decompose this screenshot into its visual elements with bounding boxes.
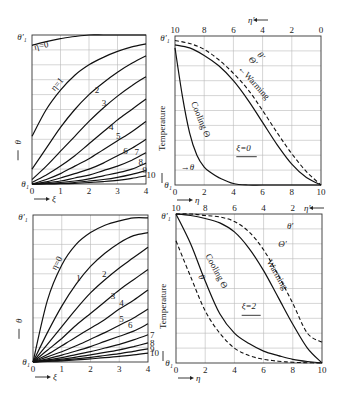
dashed-top-symbol-label: θ′ [287, 221, 294, 231]
x-tick-label: 4 [231, 187, 236, 197]
x2-tick-label: 6 [231, 25, 236, 35]
y-axis-label: θ [13, 139, 23, 144]
y-top-label: θ′₁ [17, 32, 27, 42]
panel-top-right: 0246810ηθ′₁θ₁1086420η′TemperatureCooling… [157, 15, 326, 205]
x-tick-label: 3 [115, 186, 120, 196]
x-tick-label: 1 [60, 364, 65, 374]
panel-top-left: 01234ξθ′₁θ₁θη=0η=12345678910 [13, 32, 156, 204]
x-tick-label: 8 [291, 365, 296, 375]
x-tick-label: 1 [58, 186, 63, 196]
curve-label: 10 [147, 170, 157, 180]
x2-tick-label: 4 [260, 25, 265, 35]
x-tick-label: 0 [174, 365, 179, 375]
curve-label: 1 [76, 273, 81, 283]
x-tick-label: 2 [88, 364, 93, 374]
x-tick-label: 0 [30, 186, 35, 196]
curve-label: 4 [109, 122, 114, 132]
y-bottom-label: θ₁ [165, 358, 173, 368]
x2-tick-label: 10 [171, 25, 181, 35]
x-tick-label: 4 [144, 186, 149, 196]
curve-label: 3 [111, 291, 116, 301]
cooling-label: Cooling Θ [203, 252, 230, 290]
curve-label: 6 [128, 320, 133, 330]
x2-tick-label: 4 [261, 203, 266, 213]
y-bottom-label: θ₁ [21, 179, 29, 189]
x-tick-label: 6 [261, 365, 266, 375]
x-axis-label: ξ [53, 372, 57, 382]
x2-tick-label: 2 [291, 203, 296, 213]
curve-label: 3 [102, 98, 107, 108]
x-axis-label: η [196, 373, 201, 383]
x2-tick-label: 10 [172, 203, 182, 213]
x-tick-label: 10 [317, 187, 327, 197]
y-axis-label: Temperature [157, 106, 167, 151]
y-top-label: θ′₁ [160, 33, 170, 43]
x-tick-label: 2 [87, 186, 92, 196]
y-bottom-label: θ₁ [22, 357, 30, 367]
param-label: ξ=2 [242, 301, 257, 311]
x-tick-label: 8 [290, 187, 295, 197]
x-tick-label: 6 [260, 187, 265, 197]
x2-tick-label: 6 [232, 203, 237, 213]
curve-label: η=1 [49, 76, 66, 93]
arrow-head-icon [47, 375, 51, 379]
warming-symbol-label: Θ′ [278, 239, 287, 249]
arrow-head-icon [189, 198, 193, 202]
curve-label: 4 [119, 298, 124, 308]
warming-label: Warming [265, 258, 291, 292]
x2-tick-label: 8 [203, 203, 208, 213]
x-tick-label: 0 [173, 187, 178, 197]
curve-label: 6 [123, 146, 128, 156]
x-tick-label: 10 [318, 365, 328, 375]
param-label: ξ=0 [236, 143, 251, 153]
x-tick-label: 3 [117, 364, 122, 374]
x2-tick-label: 8 [202, 25, 207, 35]
y-top-label: θ′₁ [161, 211, 171, 221]
arrow-head-icon [46, 197, 50, 201]
curve-label: 5 [119, 314, 124, 324]
y-bottom-label: θ₁ [164, 180, 172, 190]
x-tick-label: 4 [232, 365, 237, 375]
dashed-bottom-symbol-label: θ [196, 273, 207, 282]
x-axis-label: ξ [52, 194, 56, 204]
x-tick-label: 2 [203, 365, 208, 375]
x-tick-label: 4 [146, 364, 151, 374]
theta-arrow-label: →θ [181, 162, 195, 172]
arrow-head-icon [190, 376, 194, 380]
panel-bottom-left: 01234ξθ′₁θ₁θη=012345678910 [14, 212, 160, 382]
y-axis-label: θ [14, 318, 24, 323]
y-top-label: θ′₁ [18, 212, 28, 222]
x2-tick-label: 0 [319, 25, 324, 35]
x2-tick-label: 2 [290, 25, 295, 35]
x-axis-label: η [195, 195, 200, 205]
curve-label: η=0 [49, 254, 65, 272]
y-axis-label: Temperature [158, 284, 168, 329]
curve-label: 10 [150, 348, 160, 358]
x-tick-label: 2 [202, 187, 207, 197]
curve-label: 2 [102, 269, 107, 279]
x-tick-label: 0 [31, 364, 36, 374]
cooling-label: Cooling Θ [189, 100, 213, 139]
curve-label: 2 [95, 85, 100, 95]
curve-label: 7 [135, 147, 140, 157]
panel-bottom-right: 0246810ηθ′₁θ₁108642η′TemperatureCooling … [158, 203, 327, 383]
figure: 01234ξθ′₁θ₁θη=0η=123456789100246810ηθ′₁θ… [0, 0, 342, 394]
curve-label: 5 [116, 131, 121, 141]
